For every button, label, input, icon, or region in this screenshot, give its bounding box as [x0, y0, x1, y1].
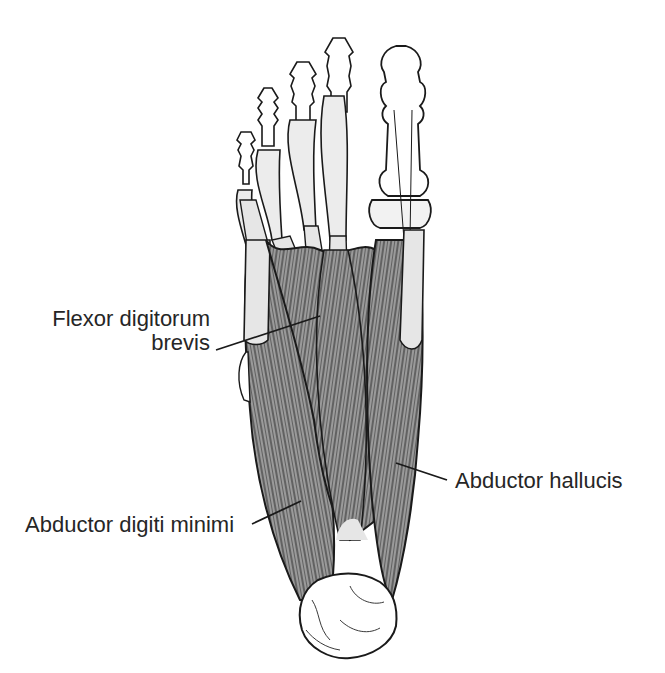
- label-flexor-digitorum-brevis: Flexor digitorum brevis: [40, 307, 210, 355]
- label-abductor-digiti-minimi: Abductor digiti minimi: [25, 513, 234, 537]
- label-abductor-hallucis: Abductor hallucis: [455, 469, 623, 493]
- abductor-hallucis-tendon: [400, 230, 424, 349]
- abductor-digiti-minimi-tendon: [244, 240, 270, 345]
- calcaneus: [300, 574, 397, 659]
- lateral-bulge: [239, 352, 250, 402]
- toe-2: [321, 38, 353, 240]
- toe-3: [288, 62, 316, 230]
- label-flexor-digitorum-brevis-line1: Flexor digitorum: [40, 307, 210, 331]
- label-flexor-digitorum-brevis-line2: brevis: [40, 331, 210, 355]
- great-toe: [369, 46, 431, 240]
